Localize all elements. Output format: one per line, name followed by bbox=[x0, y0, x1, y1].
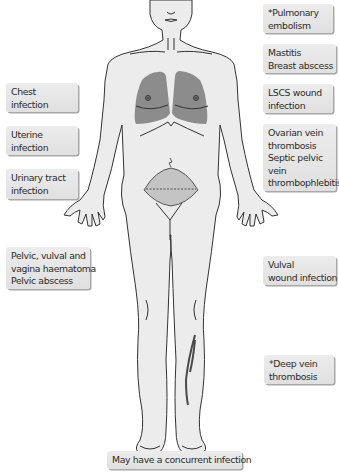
label-chest-infection: Chest infection bbox=[6, 83, 78, 112]
label-uterine-infection: Uterine infection bbox=[6, 126, 78, 155]
label-pulmonary-embolism: *Pulmonary embolism bbox=[263, 4, 333, 33]
label-pelvic-haematoma-abscess: Pelvic, vulval and vagina haematoma Pelv… bbox=[6, 247, 90, 289]
label-ovarian-vein-thrombosis: Ovarian vein thrombosis Septic pelvic ve… bbox=[263, 124, 336, 191]
label-concurrent-infection: May have a concurrent infection bbox=[107, 451, 242, 469]
label-urinary-tract-infection: Urinary tract infection bbox=[6, 169, 78, 199]
label-mastitis-breast-abscess: Mastitis Breast abscess bbox=[263, 44, 336, 73]
postpartum-infection-diagram: Chest infection Uterine infection Urinar… bbox=[0, 0, 339, 476]
label-deep-vein-thrombosis: *Deep vein thrombosis bbox=[264, 355, 334, 384]
label-lscs-wound-infection: LSCS wound infection bbox=[263, 84, 333, 113]
label-vulval-wound-infection: Vulval wound infection bbox=[263, 256, 336, 285]
